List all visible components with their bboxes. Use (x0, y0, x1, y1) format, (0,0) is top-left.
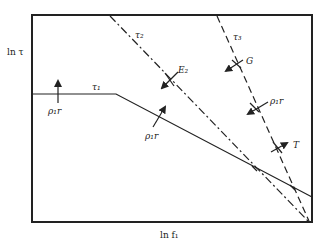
t-label: T (293, 140, 300, 150)
y-axis-label: ln τ (7, 47, 24, 57)
rho-mid-label: ρ₁r (144, 131, 159, 141)
e2-arrow (162, 72, 178, 88)
tau1-label: τ₁ (92, 82, 101, 92)
g-label: G (246, 56, 253, 66)
tau3-line (217, 16, 309, 221)
plot-frame (32, 15, 312, 222)
tau2-line (110, 16, 308, 221)
rho-left-label: ρ₁r (47, 106, 62, 116)
e2-label: E₂ (177, 65, 189, 75)
rho-right-label: ρ₁r (269, 96, 284, 106)
t-arrow (271, 143, 287, 152)
tau2-label: τ₂ (135, 30, 144, 40)
tau3-label: τ₃ (233, 32, 242, 42)
diagram-canvas: ln τ ln f₁ τ₁ τ₂ τ₃ ρ₁r ρ₁r E₂ G ρ₁r T (0, 0, 327, 248)
rho-mid-arrow (153, 107, 165, 127)
x-axis-label: ln f₁ (160, 230, 178, 240)
